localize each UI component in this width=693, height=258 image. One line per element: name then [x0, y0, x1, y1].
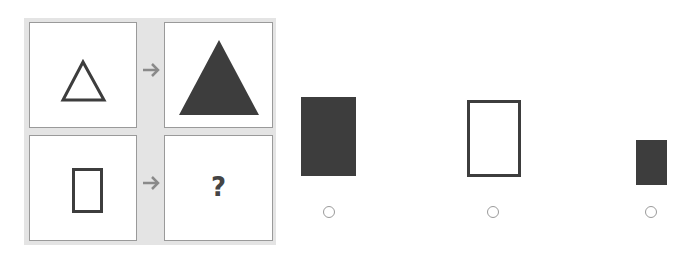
- cell-top-left: [29, 22, 137, 128]
- filled-triangle-icon: [164, 22, 273, 128]
- filled-rectangle-icon: [301, 97, 357, 177]
- option-b[interactable]: [467, 100, 523, 222]
- outline-rectangle-icon: [29, 135, 137, 241]
- option-a[interactable]: [301, 97, 357, 222]
- puzzle-grid: ?: [24, 18, 276, 245]
- arrow-right-icon: [142, 62, 162, 78]
- arrow-right-icon: [142, 175, 162, 191]
- option-b-radio[interactable]: [487, 206, 499, 218]
- option-c-radio[interactable]: [645, 206, 657, 218]
- cell-top-right: [164, 22, 273, 128]
- filled-rectangle-icon: [636, 140, 668, 186]
- outline-rectangle-icon: [467, 100, 523, 178]
- question-mark: ?: [165, 172, 272, 202]
- option-c[interactable]: [636, 140, 668, 222]
- outline-triangle-icon: [29, 22, 137, 128]
- cell-bottom-left: [29, 135, 137, 241]
- option-a-radio[interactable]: [323, 206, 335, 218]
- cell-bottom-right: ?: [164, 135, 273, 241]
